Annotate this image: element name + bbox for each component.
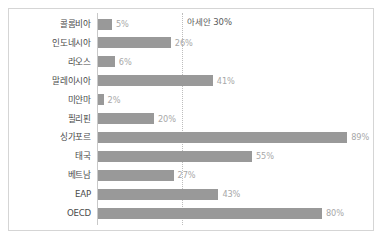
bar-value-label-10: 43%: [222, 185, 240, 203]
bar-3: [98, 56, 115, 67]
bar-value-label-4: 41%: [217, 72, 235, 90]
bar-row: 말레이시아41%: [9, 72, 373, 90]
bar-row: 태국55%: [9, 147, 373, 165]
bar-7: [98, 132, 347, 143]
bar-row: 미얀마2%: [9, 91, 373, 109]
bar-value-label-1: 5%: [116, 15, 129, 33]
bar-6: [98, 113, 154, 124]
category-label-9: 베트남: [68, 166, 91, 184]
bar-row: 베트남27%: [9, 166, 373, 184]
bar-row: EAP43%: [9, 185, 373, 203]
category-label-4: 말레이시아: [52, 72, 91, 90]
bar-value-label-6: 20%: [158, 110, 176, 128]
chart-frame: 아세안 30% 콜롬비아5%인도네시아26%라오스6%말레이시아41%미얀마2%…: [8, 8, 374, 231]
bar-row: 콜롬비아5%: [9, 15, 373, 33]
bar-value-label-2: 26%: [175, 34, 193, 52]
bar-5: [98, 94, 104, 105]
bar-row: 필리핀20%: [9, 110, 373, 128]
bar-8: [98, 151, 252, 162]
bar-value-label-7: 89%: [351, 128, 369, 146]
bar-11: [98, 208, 322, 219]
category-label-5: 미얀마: [68, 91, 91, 109]
bar-10: [98, 189, 218, 200]
category-label-2: 인도네시아: [52, 34, 91, 52]
bar-2: [98, 37, 171, 48]
category-label-3: 라오스: [68, 53, 91, 71]
category-label-8: 태국: [75, 147, 91, 165]
category-label-1: 콜롬비아: [60, 15, 91, 33]
bar-chart-plot-area: 아세안 30% 콜롬비아5%인도네시아26%라오스6%말레이시아41%미얀마2%…: [9, 9, 373, 230]
category-label-10: EAP: [75, 185, 91, 203]
bar-value-label-8: 55%: [256, 147, 274, 165]
bar-value-label-3: 6%: [119, 53, 132, 71]
bar-row: 인도네시아26%: [9, 34, 373, 52]
category-label-7: 싱가포르: [60, 128, 91, 146]
bar-4: [98, 75, 213, 86]
bar-value-label-5: 2%: [108, 91, 121, 109]
bar-row: OECD80%: [9, 204, 373, 222]
bar-1: [98, 19, 112, 30]
category-label-11: OECD: [67, 204, 91, 222]
bar-9: [98, 170, 174, 181]
bar-value-label-11: 80%: [326, 204, 344, 222]
bar-row: 라오스6%: [9, 53, 373, 71]
category-label-6: 필리핀: [68, 110, 91, 128]
bar-value-label-9: 27%: [178, 166, 196, 184]
bar-row: 싱가포르89%: [9, 128, 373, 146]
